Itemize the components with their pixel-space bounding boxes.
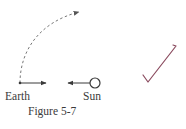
sun-label: Sun (83, 91, 101, 103)
orbit-path-arrow (20, 12, 79, 83)
earth-label: Earth (5, 91, 30, 103)
earth-velocity-arrow (19, 82, 46, 85)
figure-5-7: Earth Sun Figure 5-7 (0, 0, 186, 129)
checkmark-icon (143, 45, 176, 82)
figure-caption: Figure 5-7 (28, 106, 76, 118)
sun-circle-icon (90, 78, 100, 88)
